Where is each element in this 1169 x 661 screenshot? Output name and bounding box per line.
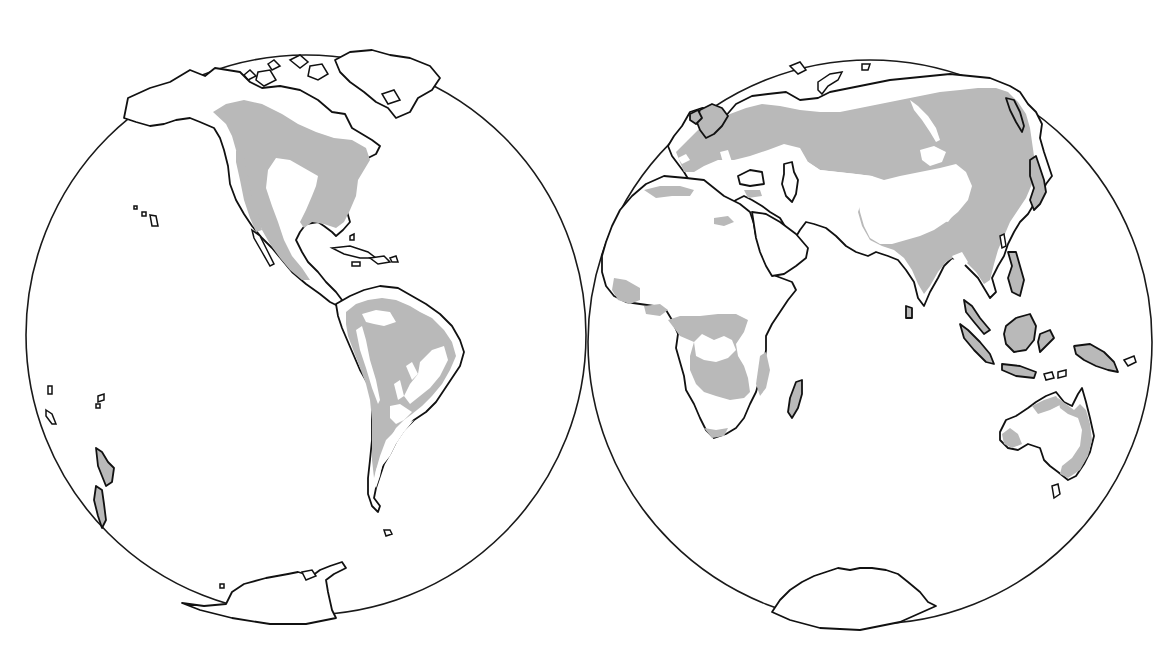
western-hemisphere [26,50,586,624]
sri-lanka [906,306,912,318]
taiwan [1000,234,1006,248]
falkland-islands [384,530,392,536]
hawaii-island [150,215,158,226]
franz-josef-land [862,64,870,70]
lesser-sunda-island [1058,370,1066,378]
eastern-hemisphere [588,60,1152,630]
hawaii-island [142,212,146,216]
antarctic-island [220,584,224,588]
pacific-island [48,386,52,394]
hawaii-island [134,206,137,209]
puerto-rico [390,256,398,262]
world-hemispheres-map [0,0,1169,661]
pacific-island [98,394,104,402]
bahamas [350,234,354,240]
pacific-island [96,404,100,408]
lesser-sunda-island [1044,372,1054,380]
jamaica [352,262,360,266]
